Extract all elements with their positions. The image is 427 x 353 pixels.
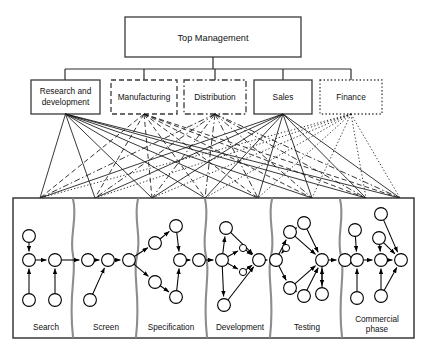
stage-label-screen: Screen <box>93 323 119 332</box>
process-node <box>149 237 162 250</box>
innovation-process-layer: Search Screen Specification Development … <box>0 0 427 353</box>
process-node <box>316 254 329 267</box>
process-node <box>239 244 246 251</box>
process-node <box>170 291 183 304</box>
process-node <box>375 290 388 303</box>
process-node <box>216 254 229 267</box>
process-node <box>82 254 95 267</box>
process-node <box>174 254 187 267</box>
process-edge <box>380 244 381 251</box>
process-node <box>282 244 289 251</box>
process-node <box>84 294 97 307</box>
process-node <box>351 254 364 267</box>
process-node <box>49 254 62 267</box>
process-node <box>349 224 362 237</box>
process-node <box>149 276 162 289</box>
stage-label-commercial-line2: phase <box>366 325 389 334</box>
process-node <box>220 222 233 235</box>
process-node <box>253 254 266 267</box>
diagram-canvas: Top Management Research and development … <box>0 0 427 353</box>
process-node <box>193 254 206 267</box>
process-node <box>298 217 311 230</box>
process-node <box>239 268 246 275</box>
process-node <box>270 254 283 267</box>
process-node <box>49 294 62 307</box>
process-node <box>351 292 364 305</box>
process-node <box>375 254 388 267</box>
stage-label-specification: Specification <box>148 323 195 332</box>
process-node <box>23 294 36 307</box>
process-node <box>395 254 408 267</box>
process-node <box>316 288 329 301</box>
stage-label-testing: Testing <box>294 323 320 332</box>
stage-label-development: Development <box>216 323 265 332</box>
process-node <box>375 208 388 221</box>
process-node <box>373 232 386 245</box>
stage-label-commercial-line1: Commercial <box>355 315 399 324</box>
process-node <box>339 254 352 267</box>
process-node <box>102 254 115 267</box>
process-node <box>298 290 311 303</box>
stage-label-search: Search <box>33 323 59 332</box>
process-node <box>123 254 136 267</box>
process-node <box>23 254 36 267</box>
process-node <box>218 299 231 312</box>
process-node <box>284 226 297 239</box>
process-node <box>170 220 183 233</box>
process-node <box>23 230 36 243</box>
process-node <box>284 282 297 295</box>
